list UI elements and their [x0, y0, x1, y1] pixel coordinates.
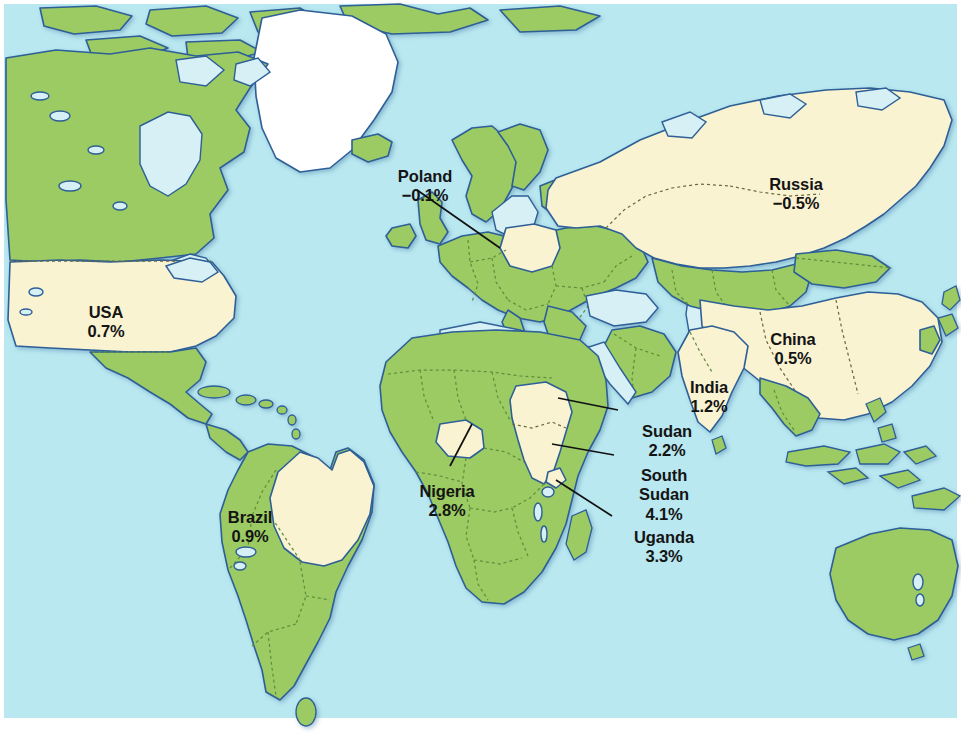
label-country-name: Uganda: [634, 528, 694, 546]
label-country-name: Russia: [769, 175, 823, 193]
map-label-brazil: Brazil 0.9%: [190, 488, 310, 566]
map-label-uganda: Uganda 3.3%: [615, 508, 713, 586]
map-label-poland: Poland −0.1%: [373, 147, 477, 225]
label-country-name: India: [690, 378, 728, 396]
label-value: 0.7%: [52, 322, 160, 342]
label-country-name: USA: [89, 303, 124, 321]
label-country-name: Nigeria: [419, 482, 474, 500]
label-value: 0.9%: [190, 527, 310, 547]
map-label-china: China 0.5%: [742, 310, 844, 388]
label-value: 3.3%: [615, 547, 713, 567]
label-country-name: Sudan: [642, 422, 692, 440]
world-map-figure: .land { fill:#9ccb63; stroke:#2d5f96; st…: [0, 0, 961, 746]
label-value: −0.5%: [741, 194, 851, 214]
map-label-russia: Russia −0.5%: [741, 155, 851, 233]
label-country-name: China: [770, 330, 815, 348]
map-label-nigeria: Nigeria 2.8%: [398, 462, 496, 540]
label-value: 0.5%: [742, 349, 844, 369]
map-label-usa: USA 0.7%: [52, 283, 160, 361]
label-value: −0.1%: [373, 186, 477, 206]
label-country-name: Brazil: [228, 508, 272, 526]
label-country-name: Poland: [398, 167, 452, 185]
label-value: 2.8%: [398, 501, 496, 521]
label-country-name: South Sudan: [639, 466, 689, 504]
